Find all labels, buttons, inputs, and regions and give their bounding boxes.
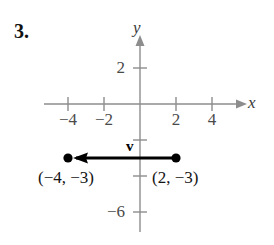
x-tick-label-4: 4 xyxy=(197,110,227,130)
y-axis-label: y xyxy=(133,18,141,38)
point-marker-left xyxy=(63,153,72,162)
y-tick-label--6: −6 xyxy=(95,202,125,222)
coordinate-label-right: (2, −3) xyxy=(152,168,198,188)
point-marker-right xyxy=(171,153,180,162)
x-tick-label--2: −2 xyxy=(84,110,124,130)
x-axis-arrowhead xyxy=(236,100,247,109)
vector-figure: 3. x y −4 −2 2 4 2 −6 v xyxy=(0,0,274,245)
y-tick-label-2: 2 xyxy=(101,58,125,78)
x-tick-label-2: 2 xyxy=(161,110,191,130)
x-tick-label--4: −4 xyxy=(48,110,88,130)
vector-arrowhead xyxy=(73,153,88,164)
coordinate-label-left: (−4, −3) xyxy=(38,168,94,188)
vector-label-v: v xyxy=(126,138,134,155)
x-axis-label: x xyxy=(248,93,256,113)
